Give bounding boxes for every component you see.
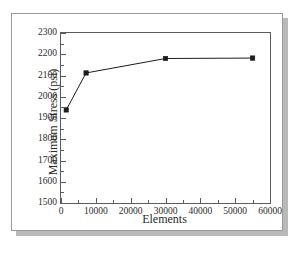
y-tick-minor (61, 107, 64, 108)
y-tick-minor (61, 171, 64, 172)
y-tick-major (61, 76, 66, 77)
y-tick-minor (61, 150, 64, 151)
y-tick-major (61, 33, 66, 34)
x-tick-minor (183, 200, 184, 203)
x-tick-major (235, 198, 236, 203)
x-axis-title: Elements (60, 212, 269, 227)
series-plot (61, 33, 270, 203)
y-tick-major (61, 161, 66, 162)
y-tick-major (61, 97, 66, 98)
x-tick-major (166, 198, 167, 203)
data-point-marker (163, 56, 167, 60)
x-tick-minor (253, 200, 254, 203)
x-tick-minor (218, 200, 219, 203)
plot-area: 1500160017001800190020002100220023000100… (60, 32, 271, 204)
y-tick-major (61, 118, 66, 119)
x-tick-minor (148, 200, 149, 203)
y-axis-title: Maximum Stress (psi) (46, 37, 61, 207)
x-tick-major (61, 198, 62, 203)
x-tick-minor (78, 200, 79, 203)
series-line (66, 58, 252, 110)
data-point-marker (250, 56, 254, 60)
y-tick-minor (61, 65, 64, 66)
y-tick-major (61, 182, 66, 183)
figure-border: 1500160017001800190020002100220023000100… (11, 13, 283, 231)
x-tick-major (200, 198, 201, 203)
y-tick-minor (61, 44, 64, 45)
figure-container: 1500160017001800190020002100220023000100… (0, 0, 296, 254)
data-point-marker (64, 108, 68, 112)
y-tick-minor (61, 86, 64, 87)
data-point-marker (84, 71, 88, 75)
caption-strip (0, 0, 296, 11)
x-tick-major (131, 198, 132, 203)
y-tick-major (61, 139, 66, 140)
y-tick-major (61, 54, 66, 55)
x-tick-major (96, 198, 97, 203)
y-tick-major (61, 203, 66, 204)
y-tick-minor (61, 129, 64, 130)
x-tick-major (270, 198, 271, 203)
x-tick-minor (113, 200, 114, 203)
y-tick-minor (61, 192, 64, 193)
